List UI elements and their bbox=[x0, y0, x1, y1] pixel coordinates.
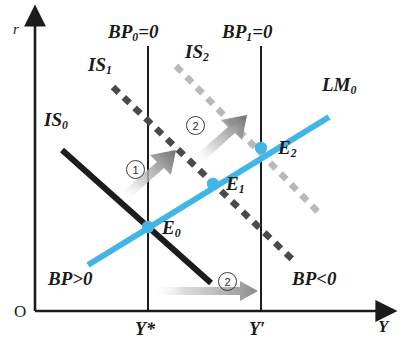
shift-marker-2a: 2 bbox=[186, 116, 205, 135]
shift-arrow-2b bbox=[152, 281, 258, 301]
origin-label: O bbox=[14, 303, 26, 320]
equilibrium-dot-e2 bbox=[255, 142, 267, 154]
equilibrium-dot-e0 bbox=[142, 221, 154, 233]
bp1-label: BP1=0 bbox=[222, 22, 273, 43]
x-tick-label-y-star: Y* bbox=[135, 320, 155, 338]
bp-deficit-label: BP<0 bbox=[292, 269, 337, 288]
x-tick-label-y-prime: Y′ bbox=[249, 320, 265, 338]
is0-label: IS0 bbox=[44, 110, 68, 131]
equilibrium-dot-e1 bbox=[207, 178, 219, 190]
x-axis-label: Y bbox=[378, 318, 388, 335]
equilibrium-label-e2: E2 bbox=[278, 138, 297, 159]
equilibrium-label-e1: E1 bbox=[226, 174, 245, 195]
shift-marker-2b: 2 bbox=[218, 272, 237, 291]
bp0-label: BP0=0 bbox=[108, 22, 159, 43]
y-axis-label: r bbox=[13, 22, 19, 37]
lm0-label: LM0 bbox=[322, 75, 356, 96]
is2-curve bbox=[176, 66, 322, 216]
shift-marker-1: 1 bbox=[126, 160, 145, 179]
equilibrium-label-e0: E0 bbox=[162, 218, 181, 239]
is1-label: IS1 bbox=[88, 55, 112, 76]
is2-label: IS2 bbox=[185, 42, 209, 63]
bp-surplus-label: BP>0 bbox=[48, 269, 93, 288]
